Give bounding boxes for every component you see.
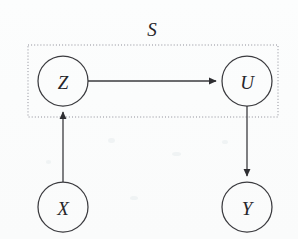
node-label-U: U — [240, 72, 255, 93]
node-Y: Y — [222, 182, 272, 232]
node-U: U — [222, 56, 272, 106]
dag-figure: S Z U X Y — [0, 0, 298, 239]
node-label-X: X — [56, 198, 70, 219]
node-label-Y: Y — [242, 198, 255, 219]
node-Z: Z — [38, 56, 88, 106]
plate-label-S: S — [147, 19, 157, 40]
node-X: X — [38, 182, 88, 232]
node-label-Z: Z — [58, 72, 69, 93]
dag-canvas: S Z U X Y — [0, 0, 298, 239]
